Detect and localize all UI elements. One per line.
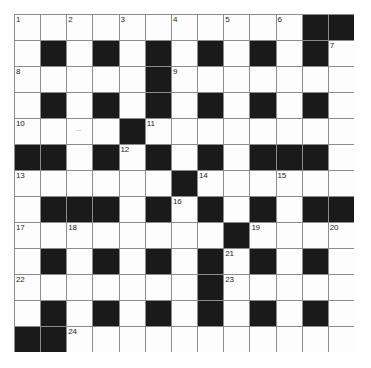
- letter-cell[interactable]: [67, 93, 92, 118]
- letter-cell[interactable]: [277, 249, 302, 274]
- letter-cell[interactable]: [93, 327, 118, 352]
- letter-cell[interactable]: 3: [120, 15, 145, 40]
- letter-cell[interactable]: [172, 301, 197, 326]
- letter-cell[interactable]: [120, 275, 145, 300]
- letter-cell[interactable]: [67, 119, 92, 144]
- letter-cell[interactable]: [329, 119, 354, 144]
- letter-cell[interactable]: [93, 67, 118, 92]
- letter-cell[interactable]: 24: [67, 327, 92, 352]
- letter-cell[interactable]: [67, 145, 92, 170]
- letter-cell[interactable]: 9: [172, 67, 197, 92]
- letter-cell[interactable]: [120, 249, 145, 274]
- letter-cell[interactable]: [172, 41, 197, 66]
- letter-cell[interactable]: [303, 223, 328, 248]
- letter-cell[interactable]: [15, 41, 40, 66]
- letter-cell[interactable]: [198, 67, 223, 92]
- letter-cell[interactable]: [277, 93, 302, 118]
- letter-cell[interactable]: [15, 93, 40, 118]
- letter-cell[interactable]: [329, 171, 354, 196]
- letter-cell[interactable]: [93, 171, 118, 196]
- letter-cell[interactable]: [250, 275, 275, 300]
- letter-cell[interactable]: [120, 327, 145, 352]
- letter-cell[interactable]: [224, 67, 249, 92]
- letter-cell[interactable]: [172, 145, 197, 170]
- letter-cell[interactable]: [146, 327, 171, 352]
- letter-cell[interactable]: [277, 67, 302, 92]
- letter-cell[interactable]: [277, 301, 302, 326]
- letter-cell[interactable]: [224, 327, 249, 352]
- letter-cell[interactable]: [250, 15, 275, 40]
- letter-cell[interactable]: [250, 171, 275, 196]
- letter-cell[interactable]: [120, 171, 145, 196]
- letter-cell[interactable]: 22: [15, 275, 40, 300]
- letter-cell[interactable]: [146, 15, 171, 40]
- letter-cell[interactable]: 5: [224, 15, 249, 40]
- letter-cell[interactable]: 11: [146, 119, 171, 144]
- letter-cell[interactable]: [120, 67, 145, 92]
- letter-cell[interactable]: [93, 15, 118, 40]
- letter-cell[interactable]: [303, 327, 328, 352]
- letter-cell[interactable]: 21: [224, 249, 249, 274]
- letter-cell[interactable]: 8: [15, 67, 40, 92]
- letter-cell[interactable]: [67, 171, 92, 196]
- letter-cell[interactable]: [120, 197, 145, 222]
- letter-cell[interactable]: [15, 249, 40, 274]
- letter-cell[interactable]: 16: [172, 197, 197, 222]
- letter-cell[interactable]: [250, 327, 275, 352]
- letter-cell[interactable]: [329, 327, 354, 352]
- letter-cell[interactable]: 4: [172, 15, 197, 40]
- letter-cell[interactable]: 2: [67, 15, 92, 40]
- letter-cell[interactable]: [224, 197, 249, 222]
- letter-cell[interactable]: [41, 171, 66, 196]
- letter-cell[interactable]: [146, 223, 171, 248]
- letter-cell[interactable]: [329, 145, 354, 170]
- letter-cell[interactable]: 13: [15, 171, 40, 196]
- letter-cell[interactable]: [172, 327, 197, 352]
- letter-cell[interactable]: [41, 67, 66, 92]
- letter-cell[interactable]: [41, 275, 66, 300]
- letter-cell[interactable]: [277, 327, 302, 352]
- letter-cell[interactable]: 23: [224, 275, 249, 300]
- letter-cell[interactable]: [224, 301, 249, 326]
- letter-cell[interactable]: 15: [277, 171, 302, 196]
- letter-cell[interactable]: [329, 301, 354, 326]
- letter-cell[interactable]: [303, 171, 328, 196]
- letter-cell[interactable]: [67, 67, 92, 92]
- crossword-grid[interactable]: 123456789101112131415161718192021222324: [14, 14, 354, 352]
- letter-cell[interactable]: [93, 119, 118, 144]
- letter-cell[interactable]: [41, 15, 66, 40]
- letter-cell[interactable]: [172, 249, 197, 274]
- letter-cell[interactable]: [277, 197, 302, 222]
- letter-cell[interactable]: [15, 301, 40, 326]
- letter-cell[interactable]: [120, 301, 145, 326]
- letter-cell[interactable]: [198, 327, 223, 352]
- letter-cell[interactable]: [15, 197, 40, 222]
- letter-cell[interactable]: [93, 223, 118, 248]
- letter-cell[interactable]: 14: [198, 171, 223, 196]
- letter-cell[interactable]: 12: [120, 145, 145, 170]
- letter-cell[interactable]: [303, 275, 328, 300]
- letter-cell[interactable]: [67, 301, 92, 326]
- letter-cell[interactable]: [224, 93, 249, 118]
- letter-cell[interactable]: [120, 41, 145, 66]
- letter-cell[interactable]: [67, 41, 92, 66]
- letter-cell[interactable]: [329, 93, 354, 118]
- letter-cell[interactable]: [224, 145, 249, 170]
- letter-cell[interactable]: 7: [329, 41, 354, 66]
- letter-cell[interactable]: 18: [67, 223, 92, 248]
- letter-cell[interactable]: [172, 223, 197, 248]
- letter-cell[interactable]: 10: [15, 119, 40, 144]
- letter-cell[interactable]: [277, 119, 302, 144]
- letter-cell[interactable]: [329, 67, 354, 92]
- letter-cell[interactable]: [93, 275, 118, 300]
- letter-cell[interactable]: [198, 223, 223, 248]
- letter-cell[interactable]: [329, 275, 354, 300]
- letter-cell[interactable]: [303, 119, 328, 144]
- letter-cell[interactable]: [224, 119, 249, 144]
- letter-cell[interactable]: 1: [15, 15, 40, 40]
- letter-cell[interactable]: [41, 119, 66, 144]
- letter-cell[interactable]: [250, 119, 275, 144]
- letter-cell[interactable]: 17: [15, 223, 40, 248]
- letter-cell[interactable]: [41, 223, 66, 248]
- letter-cell[interactable]: [198, 15, 223, 40]
